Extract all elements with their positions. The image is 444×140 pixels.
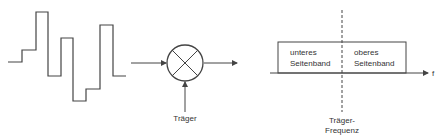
mixer-icon <box>167 45 203 81</box>
frequency-axis-label: f <box>432 69 435 78</box>
carrier-label: Träger <box>173 114 197 123</box>
upper-sideband-label-1: oberes <box>354 48 378 57</box>
upper-sideband-label-2: Seitenband <box>354 59 394 68</box>
lower-sideband-label-1: unteres <box>290 48 317 57</box>
carrier-frequency-label-2: Frequenz <box>325 126 359 135</box>
modulation-diagram: Träger f unteres Seitenband oberes Seite… <box>0 0 444 140</box>
lower-sideband-label-2: Seitenband <box>290 59 330 68</box>
input-waveform <box>8 12 126 101</box>
carrier-frequency-label-1: Träger- <box>329 116 355 125</box>
